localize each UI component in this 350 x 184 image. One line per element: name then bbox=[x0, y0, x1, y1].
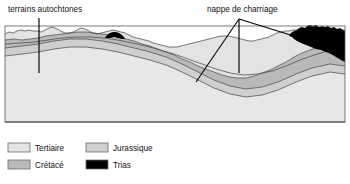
geological-cross-section-figure: terrains autochtones nappe de charriage … bbox=[0, 0, 350, 184]
annotation-label-nappe-de-charriage: nappe de charriage bbox=[207, 5, 278, 14]
legend-item-cretace: Crétacé bbox=[8, 160, 64, 170]
legend-swatch-cretace bbox=[8, 160, 30, 169]
legend-item-tertiaire: Tertiaire bbox=[8, 143, 65, 153]
legend-item-jurassique: Jurassique bbox=[86, 143, 153, 153]
legend-label-cretace: Crétacé bbox=[35, 161, 64, 170]
legend-label-tertiaire: Tertiaire bbox=[35, 144, 65, 153]
annotation-label-terrains-autochtones: terrains autochtones bbox=[8, 5, 82, 14]
legend-swatch-jurassique bbox=[86, 143, 108, 152]
legend-swatch-trias bbox=[86, 160, 108, 169]
legend-label-trias: Trias bbox=[113, 161, 131, 170]
legend-swatch-tertiaire bbox=[8, 143, 30, 152]
legend-label-jurassique: Jurassique bbox=[113, 144, 153, 153]
